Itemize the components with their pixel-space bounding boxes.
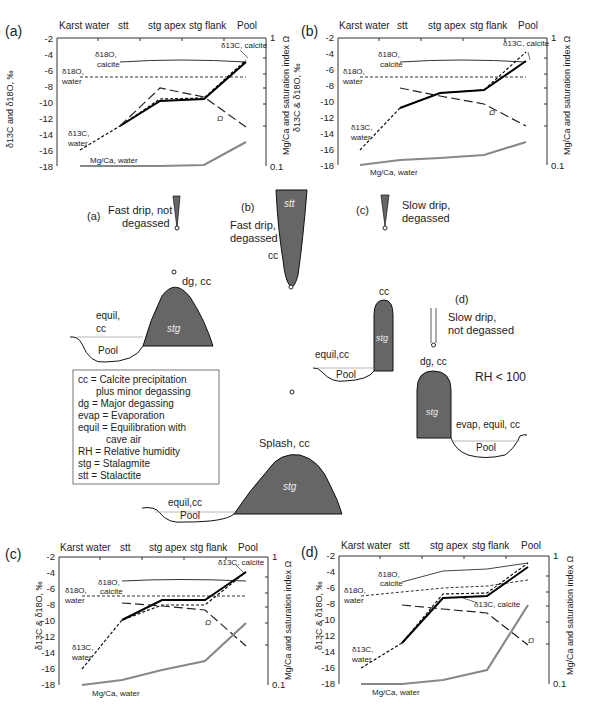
scene-title: degassed: [402, 212, 450, 224]
series-label: Mg/Ca, water: [92, 689, 140, 698]
series-label: Mg/Ca, water: [370, 168, 418, 177]
legend-entry: cave air: [106, 434, 142, 445]
stalactite-icon: [431, 308, 436, 343]
chart-d: (d) Karst water stt stg apex stg flank P…: [301, 540, 575, 697]
series-label: δ18O,: [65, 586, 87, 595]
scene-label: cc: [268, 250, 278, 261]
category-karst-water: Karst water: [60, 542, 111, 553]
scene-title: not degassed: [448, 324, 514, 336]
category-pool: Pool: [238, 542, 258, 553]
scene-title: Slow drip,: [448, 311, 496, 323]
drip-drop-icon: [383, 226, 387, 230]
panel-label: (b): [241, 201, 254, 213]
right-tick: 0.1: [270, 161, 283, 172]
tick: -4: [45, 49, 53, 60]
tick: -2: [327, 550, 335, 561]
tick: -2: [47, 551, 55, 562]
tick: -4: [326, 48, 334, 59]
scene-label: cc: [96, 323, 106, 334]
pool-label: Pool: [336, 369, 356, 380]
chart-a: (a) Karst water stt stg apex stg flank P…: [5, 20, 291, 172]
legend-entry: evap = Evaporation: [78, 410, 164, 421]
series-label: δ13C, calcite: [474, 600, 521, 609]
tick: -4: [47, 567, 55, 578]
category-stt: stt: [120, 542, 131, 553]
series-label: calcite: [97, 60, 120, 69]
chart-c: (c) Karst water stt stg apex stg flank P…: [5, 542, 293, 698]
right-axis-label: Mg/Ca and saturation index Ω: [562, 35, 572, 155]
category-karst-water: Karst water: [59, 20, 110, 31]
legend-entry: dg = Major degassing: [78, 398, 174, 409]
series-label: Ω: [205, 618, 211, 627]
right-axis-label: Mg/Ca and saturation index Ω: [283, 560, 293, 680]
tick: -2: [45, 33, 53, 44]
scene-title: Slow drip,: [402, 199, 450, 211]
category-pool: Pool: [237, 20, 257, 31]
category-pool: Pool: [518, 20, 538, 31]
tick: -16: [321, 662, 335, 673]
stalagmite-shape: [417, 371, 451, 438]
category-stt: stt: [118, 20, 129, 31]
series-label: Ω: [217, 114, 223, 123]
tick: -4: [327, 566, 335, 577]
category-stt: stt: [397, 20, 408, 31]
stg-label: stg: [376, 333, 388, 343]
tick: -6: [45, 65, 53, 76]
category-stg-apex: stg apex: [430, 540, 468, 551]
stalagmite-shape: [143, 287, 213, 346]
scene-d: (d) Slow drip, not degassed dg, cc RH < …: [417, 293, 527, 458]
series-label: δ18O,: [95, 50, 117, 59]
right-tick: 1: [551, 32, 556, 43]
stg-label: stg: [167, 323, 181, 334]
tick: -8: [326, 80, 334, 91]
tick: -18: [39, 161, 53, 172]
legend-entry: RH = Relative humidity: [78, 446, 180, 457]
tick: -12: [39, 113, 53, 124]
series-label: Mg/Ca, water: [372, 688, 420, 697]
tick: -6: [47, 583, 55, 594]
tick: -14: [39, 129, 53, 140]
panel-label: (d): [455, 293, 468, 305]
series-label: calcite: [380, 60, 403, 69]
scene-label: equil,cc: [168, 497, 202, 508]
series-label: water: [71, 653, 92, 662]
scene-label: dg, cc: [420, 356, 447, 367]
scene-label: equil,: [96, 310, 120, 321]
legend-entry: stt = Stalactite: [78, 470, 142, 481]
series-label: δ18O,: [98, 578, 120, 587]
tick: -18: [320, 160, 334, 171]
series-label: water: [350, 133, 371, 142]
left-axis-label: δ13C & δ18O, ‰: [292, 63, 302, 132]
scene-label: dg, cc: [182, 275, 212, 287]
stalactite-icon: [381, 195, 389, 226]
pool-label: Pool: [98, 345, 118, 356]
series-label: δ13C,: [72, 643, 93, 652]
stalagmite-diagram: (a) Karst water stt stg apex stg flank P…: [0, 0, 594, 705]
panel-label: (a): [87, 210, 100, 222]
series-label: water: [343, 596, 364, 605]
series-label: δ18O,: [343, 67, 365, 76]
stalactite-icon: [173, 196, 180, 228]
series-label: δ13C,: [351, 123, 372, 132]
pool-label: Pool: [476, 442, 496, 453]
series-label: water: [61, 77, 82, 86]
series-label: δ18O,: [378, 50, 400, 59]
category-pool: Pool: [521, 540, 541, 551]
category-stt: stt: [399, 540, 410, 551]
category-stg-flank: stg flank: [472, 540, 510, 551]
legend-entry: stg = Stalagmite: [78, 458, 150, 469]
series-label: δ18O,: [344, 586, 366, 595]
series-label: water: [351, 655, 372, 664]
category-stg-flank: stg flank: [189, 20, 227, 31]
series-label: calcite: [100, 587, 123, 596]
pool-label: Pool: [180, 510, 200, 521]
right-tick: 0.1: [551, 160, 564, 171]
series-label: Ω: [489, 108, 495, 117]
rh-label: RH < 100: [475, 370, 526, 384]
scene-label: cc: [379, 286, 389, 297]
chart-b: (b) Karst water stt stg apex stg flank P…: [292, 20, 572, 177]
panel-label: (b): [301, 23, 318, 39]
scene-title: degassed: [122, 217, 170, 229]
right-axis-label: Mg/Ca and saturation index Ω: [565, 555, 575, 675]
tick: -8: [47, 599, 55, 610]
